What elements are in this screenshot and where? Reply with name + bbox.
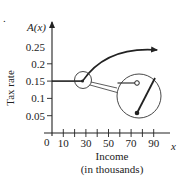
y-axis-title: Tax rate xyxy=(4,70,16,106)
y-ticks xyxy=(47,64,52,116)
y-tick-label: 0.2 xyxy=(31,58,45,70)
x-tick-label: 30 xyxy=(80,137,92,149)
y-tick-label: 0.25 xyxy=(26,41,46,53)
x-tick-label: 10 xyxy=(58,137,70,149)
zoom-closed-endpoint xyxy=(135,111,140,116)
x-axis-variable: x xyxy=(170,140,176,152)
curve-start-point xyxy=(81,80,84,83)
zoom-open-endpoint xyxy=(135,81,140,86)
x-tick-label: 50 xyxy=(103,137,115,149)
x-axis-title-line-1: Income xyxy=(96,150,129,162)
y-tick-labels: 0.050.10.150.20.25 xyxy=(26,41,46,122)
x-axis-title-line-2: (in thousands) xyxy=(81,163,144,176)
tax-rate-chart: . A(x) x 0 1030507090 0.050.10.150.20.25… xyxy=(0,0,184,185)
x-tick-label: 90 xyxy=(148,137,160,149)
function-label: A(x) xyxy=(26,21,46,34)
zoom-connector-upper xyxy=(91,82,117,88)
zoom-connector-lower xyxy=(90,85,119,93)
y-tick-label: 0.15 xyxy=(26,75,46,87)
cropped-text-fragment: . xyxy=(3,12,6,24)
y-tick-label: 0.1 xyxy=(31,92,45,104)
x-tick-label: 70 xyxy=(126,137,138,149)
origin-label: 0 xyxy=(44,136,50,148)
y-tick-label: 0.05 xyxy=(26,110,46,122)
x-tick-labels: 1030507090 xyxy=(58,137,160,149)
